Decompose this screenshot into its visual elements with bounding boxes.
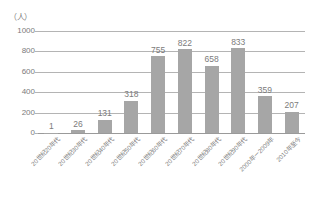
x-axis-category-label: 2010年至今 bbox=[275, 136, 302, 163]
bar[interactable] bbox=[178, 49, 192, 133]
y-axis-tick-label: 600 bbox=[5, 68, 35, 76]
bar[interactable] bbox=[285, 112, 299, 133]
bar[interactable] bbox=[258, 96, 272, 133]
bar-value-label: 822 bbox=[178, 39, 192, 48]
bar-value-label: 833 bbox=[231, 38, 245, 47]
bar[interactable] bbox=[98, 120, 112, 133]
axis-baseline bbox=[38, 133, 305, 134]
bar-slot: 318 bbox=[118, 31, 145, 133]
bar-slot: 833 bbox=[225, 31, 252, 133]
bar-slot: 26 bbox=[65, 31, 92, 133]
bar-value-label: 658 bbox=[204, 55, 218, 64]
bar-slot: 755 bbox=[145, 31, 172, 133]
bar-slot: 359 bbox=[252, 31, 279, 133]
bar-value-label: 207 bbox=[285, 101, 299, 110]
bar-slot: 207 bbox=[278, 31, 305, 133]
y-axis-tick-label: 200 bbox=[5, 109, 35, 117]
y-axis-tick-label: 400 bbox=[5, 88, 35, 96]
bar-value-label: 26 bbox=[73, 120, 82, 129]
y-axis-tick-label: 800 bbox=[5, 47, 35, 55]
y-axis-tick-label: 1000 bbox=[5, 27, 35, 35]
bar[interactable] bbox=[124, 101, 138, 133]
plot-area: 126131318755822658833359207 bbox=[38, 31, 305, 133]
bar-chart: （人） 02004006008001000 126131318755822658… bbox=[0, 0, 316, 204]
bar-slot: 658 bbox=[198, 31, 225, 133]
bar-value-label: 1 bbox=[49, 122, 54, 131]
bar-slot: 822 bbox=[172, 31, 199, 133]
bar-value-label: 318 bbox=[124, 90, 138, 99]
bar-value-label: 359 bbox=[258, 86, 272, 95]
bar-slot: 1 bbox=[38, 31, 65, 133]
bar[interactable] bbox=[205, 66, 219, 133]
bar[interactable] bbox=[151, 56, 165, 133]
y-axis-tick-label: 0 bbox=[5, 129, 35, 137]
y-axis-unit-label: （人） bbox=[9, 11, 32, 22]
bar-slot: 131 bbox=[91, 31, 118, 133]
bar[interactable] bbox=[71, 130, 85, 133]
bar[interactable] bbox=[231, 48, 245, 133]
bar-value-label: 755 bbox=[151, 46, 165, 55]
bar-value-label: 131 bbox=[98, 109, 112, 118]
